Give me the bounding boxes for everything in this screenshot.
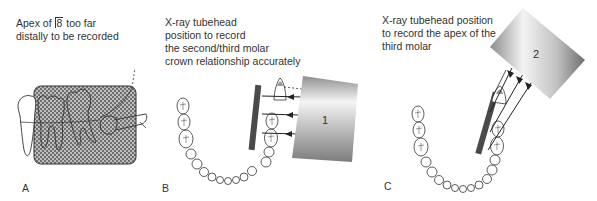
tooth (468, 185, 475, 192)
diagram-canvas: 1 2 (0, 0, 597, 201)
tooth (261, 157, 271, 167)
xray-beam-dashed (284, 87, 302, 89)
tubehead-1-label: 1 (322, 114, 328, 126)
panel-c-illustration: 2 (412, 8, 585, 193)
tooth (475, 181, 483, 189)
dental-arch (177, 98, 278, 185)
ramus-dashed-line (132, 68, 135, 88)
tooth (443, 181, 451, 189)
tooth (487, 165, 497, 175)
root-tip (140, 122, 146, 128)
xray-beam (262, 96, 302, 97)
tooth (460, 186, 467, 193)
tooth (240, 173, 248, 181)
tooth (225, 178, 232, 185)
tooth (435, 176, 444, 185)
tooth (186, 149, 196, 159)
tooth (233, 177, 240, 184)
tooth (483, 175, 492, 184)
panel-a-illustration (18, 68, 147, 164)
tooth (192, 159, 202, 169)
tooth (208, 173, 216, 181)
tooth (421, 157, 431, 167)
panel-b-illustration: 1 (177, 76, 358, 185)
xray-beam (490, 68, 512, 112)
tooth (427, 167, 437, 177)
tooth (200, 168, 209, 177)
tooth (248, 167, 257, 176)
tooth (490, 155, 500, 165)
arrow-head (286, 112, 293, 118)
tubehead-2-label: 2 (533, 48, 539, 60)
xray-beam (488, 80, 533, 150)
arrow-head (285, 131, 292, 137)
arrow-head (287, 94, 294, 100)
tooth (452, 185, 459, 192)
arrow-head (516, 76, 523, 84)
xray-film (249, 85, 262, 150)
tooth (217, 177, 224, 184)
premolar-tooth (18, 96, 36, 156)
tooth (264, 147, 274, 157)
